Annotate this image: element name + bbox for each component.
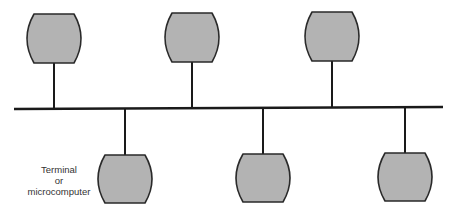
label-line-terminal: Terminal	[14, 164, 104, 175]
terminal-top-1	[27, 14, 81, 63]
terminal-top-3	[305, 12, 359, 61]
terminal-bottom-3	[378, 153, 432, 201]
label-line-or: or	[14, 175, 104, 186]
label-line-microcomputer: microcomputer	[14, 186, 104, 197]
terminal-label: Terminal or microcomputer	[14, 164, 104, 197]
terminal-top-2	[165, 13, 219, 62]
bus-line	[14, 107, 443, 109]
terminal-bottom-1	[98, 155, 152, 203]
terminal-bottom-2	[236, 154, 290, 202]
